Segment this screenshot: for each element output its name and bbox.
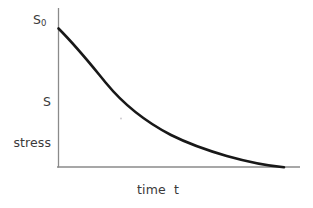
y-axis-title: S stress <box>0 68 51 176</box>
y-intercept-subscript: 0 <box>41 18 46 28</box>
y-axis-title-line-1: S <box>0 95 51 109</box>
x-axis-title: time t <box>108 183 208 197</box>
stress-curve <box>59 29 285 168</box>
stress-relaxation-figure: S0 S stress time t <box>0 0 313 208</box>
y-intercept-label: S0 <box>33 13 46 27</box>
y-axis-title-line-2: stress <box>0 136 51 150</box>
scan-speck-artifact <box>120 118 122 120</box>
y-intercept-symbol: S <box>33 12 41 27</box>
